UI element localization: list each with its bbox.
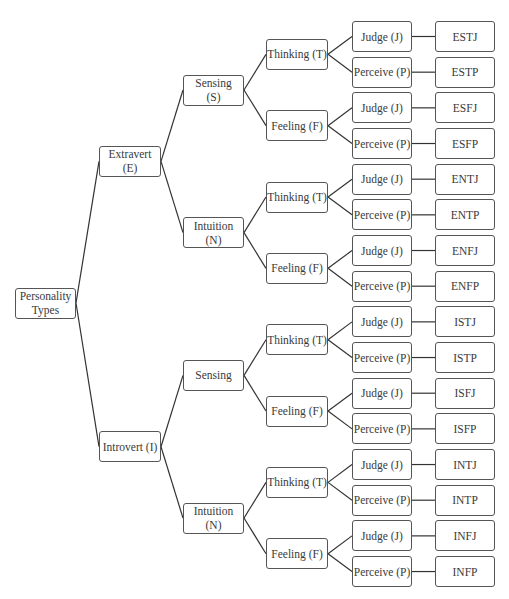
type-node: ESTP	[435, 57, 495, 88]
root-node: Personality Types	[15, 288, 76, 319]
connector-line	[328, 554, 352, 572]
connector-line	[161, 375, 183, 446]
connector-line	[328, 268, 352, 286]
connector-lines	[0, 0, 509, 599]
connector-line	[328, 179, 352, 197]
connector-line	[244, 518, 266, 554]
attitude-node: Extravert (E)	[99, 146, 161, 177]
connector-line	[328, 197, 352, 215]
perception-node: Sensing	[183, 360, 244, 391]
connector-line	[328, 251, 352, 269]
type-node: ENFP	[435, 271, 495, 302]
connector-line	[244, 340, 266, 376]
connector-line	[244, 233, 266, 269]
perception-node: Intuition (N)	[183, 503, 244, 534]
function-node: Feeling (F)	[266, 253, 328, 284]
decision-node: Judge (J)	[352, 306, 412, 337]
connector-line	[244, 90, 266, 126]
decision-node: Judge (J)	[352, 21, 412, 52]
connector-line	[76, 161, 99, 303]
type-node: ENFJ	[435, 235, 495, 266]
type-node: ENTJ	[435, 164, 495, 195]
type-node: ESFP	[435, 128, 495, 159]
attitude-node: Introvert (I)	[99, 431, 161, 462]
connector-line	[328, 340, 352, 358]
connector-line	[328, 37, 352, 55]
type-node: ENTP	[435, 199, 495, 230]
function-node: Thinking (T)	[266, 467, 328, 498]
personality-types-tree-diagram: Judge (J)ESTJPerceive (P)ESTPJudge (J)ES…	[0, 0, 509, 599]
type-node: INFJ	[435, 520, 495, 551]
decision-node: Perceive (P)	[352, 199, 412, 230]
connector-line	[328, 465, 352, 483]
connector-line	[244, 197, 266, 233]
function-node: Thinking (T)	[266, 39, 328, 70]
type-node: ISTJ	[435, 306, 495, 337]
connector-line	[161, 161, 183, 232]
type-node: ISFP	[435, 413, 495, 444]
connector-line	[328, 126, 352, 144]
decision-node: Perceive (P)	[352, 556, 412, 587]
function-node: Thinking (T)	[266, 324, 328, 355]
decision-node: Perceive (P)	[352, 342, 412, 373]
connector-line	[328, 393, 352, 411]
connector-line	[328, 322, 352, 340]
decision-node: Perceive (P)	[352, 485, 412, 516]
decision-node: Perceive (P)	[352, 413, 412, 444]
connector-line	[244, 54, 266, 90]
decision-node: Judge (J)	[352, 235, 412, 266]
function-node: Thinking (T)	[266, 182, 328, 213]
decision-node: Judge (J)	[352, 164, 412, 195]
connector-line	[76, 303, 99, 447]
type-node: INTJ	[435, 449, 495, 480]
function-node: Feeling (F)	[266, 110, 328, 141]
connector-line	[161, 447, 183, 518]
decision-node: Judge (J)	[352, 520, 412, 551]
type-node: INFP	[435, 556, 495, 587]
connector-line	[328, 108, 352, 126]
decision-node: Perceive (P)	[352, 271, 412, 302]
decision-node: Perceive (P)	[352, 128, 412, 159]
type-node: ESTJ	[435, 21, 495, 52]
function-node: Feeling (F)	[266, 538, 328, 569]
connector-line	[328, 54, 352, 72]
decision-node: Judge (J)	[352, 449, 412, 480]
perception-node: Sensing (S)	[183, 75, 244, 106]
decision-node: Perceive (P)	[352, 57, 412, 88]
connector-line	[244, 482, 266, 518]
connector-line	[328, 482, 352, 500]
connector-line	[244, 375, 266, 411]
function-node: Feeling (F)	[266, 396, 328, 427]
type-node: INTP	[435, 485, 495, 516]
type-node: ISFJ	[435, 378, 495, 409]
type-node: ESFJ	[435, 92, 495, 123]
connector-line	[328, 536, 352, 554]
type-node: ISTP	[435, 342, 495, 373]
decision-node: Judge (J)	[352, 92, 412, 123]
decision-node: Judge (J)	[352, 378, 412, 409]
connector-line	[328, 411, 352, 429]
perception-node: Intuition (N)	[183, 217, 244, 248]
connector-line	[161, 90, 183, 161]
